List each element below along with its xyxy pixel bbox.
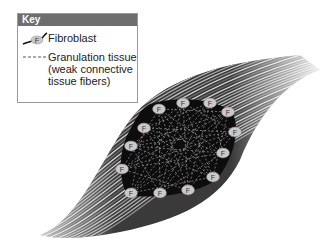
fibroblast-cell: F — [229, 127, 242, 137]
svg-text:F: F — [142, 125, 146, 132]
key-item-fibroblast: F Fibroblast — [18, 32, 139, 46]
fibroblast-cell: F — [217, 148, 230, 158]
fibroblast-cell: F — [125, 141, 138, 151]
dashed-line-icon — [22, 51, 48, 63]
fibroblast-cell: F — [222, 107, 235, 117]
svg-text:F: F — [129, 190, 133, 197]
svg-text:F: F — [226, 109, 230, 116]
fibroblast-cell: F — [138, 123, 151, 133]
fibroblast-cell: F — [116, 164, 129, 174]
fibroblast-cell: F — [125, 188, 138, 198]
key-legend: Key F Fibroblast Granulation tissue (wea… — [17, 13, 138, 103]
svg-text:F: F — [186, 187, 190, 194]
key-title: Key — [18, 14, 137, 26]
svg-text:F: F — [120, 166, 124, 173]
fibroblast-cell: F — [182, 185, 195, 195]
fibroblast-cell: F — [177, 98, 190, 108]
fibroblast-cell: F — [207, 172, 220, 182]
svg-text:F: F — [129, 143, 133, 150]
svg-text:F: F — [157, 106, 161, 113]
fibroblast-cell: F — [153, 104, 166, 114]
svg-text:F: F — [211, 174, 215, 181]
svg-text:F: F — [181, 100, 185, 107]
fibroblast-cell: F — [204, 98, 217, 108]
svg-text:F: F — [35, 37, 39, 44]
fibroblast-icon: F — [22, 32, 48, 46]
key-label-fibroblast: Fibroblast — [48, 32, 138, 44]
svg-text:F: F — [221, 150, 225, 157]
fibroblast-cell: F — [154, 188, 167, 198]
svg-text:F: F — [158, 190, 162, 197]
svg-text:F: F — [208, 100, 212, 107]
svg-text:F: F — [233, 129, 237, 136]
key-label-granulation: Granulation tissue (weak connective tiss… — [48, 51, 138, 87]
key-item-granulation: Granulation tissue (weak connective tiss… — [18, 51, 139, 91]
